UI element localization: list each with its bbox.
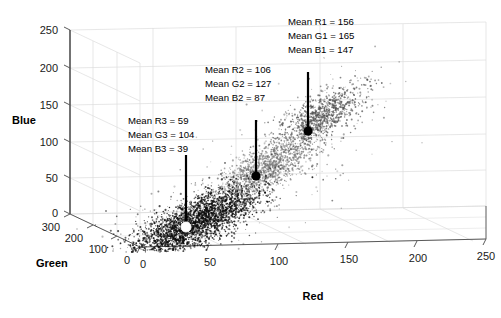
green-tick-0: 0 bbox=[124, 254, 130, 266]
blue-tick-0: 0 bbox=[52, 207, 58, 219]
mean-marker-2 bbox=[251, 171, 260, 180]
mean-marker-1 bbox=[303, 126, 312, 135]
annotation-2: Mean R2 = 106 Mean G2 = 127 Mean B2 = 87 bbox=[205, 64, 271, 103]
annotation-2-line-2: Mean G2 = 127 bbox=[205, 78, 271, 89]
annotation-1: Mean R1 = 156 Mean G1 = 165 Mean B1 = 14… bbox=[288, 16, 354, 55]
green-axis-label: Green bbox=[36, 257, 68, 269]
annotation-3-line-1: Mean R3 = 59 bbox=[128, 115, 189, 126]
blue-tick-150: 150 bbox=[40, 99, 58, 111]
red-tick-0: 0 bbox=[140, 258, 146, 270]
red-axis-label: Red bbox=[303, 290, 324, 302]
green-tick-100: 100 bbox=[89, 243, 107, 255]
blue-tick-50: 50 bbox=[46, 172, 58, 184]
annotation-1-line-3: Mean B1 = 147 bbox=[288, 44, 353, 55]
annotation-2-line-1: Mean R2 = 106 bbox=[205, 64, 271, 75]
red-tick-100: 100 bbox=[270, 255, 288, 267]
blue-tick-250: 250 bbox=[40, 24, 58, 36]
scatter3d-plot: 250 200 150 100 50 0 300 200 100 0 0 50 … bbox=[0, 0, 501, 318]
annotation-3-line-3: Mean B3 = 39 bbox=[128, 143, 188, 154]
red-tick-200: 200 bbox=[409, 252, 427, 264]
green-tick-300: 300 bbox=[42, 221, 60, 233]
chart-figure: 250 200 150 100 50 0 300 200 100 0 0 50 … bbox=[0, 0, 501, 318]
annotation-1-line-2: Mean G1 = 165 bbox=[288, 30, 354, 41]
red-tick-150: 150 bbox=[340, 253, 358, 265]
annotation-3-line-2: Mean G3 = 104 bbox=[128, 129, 195, 140]
blue-tick-100: 100 bbox=[40, 136, 58, 148]
annotation-3: Mean R3 = 59 Mean G3 = 104 Mean B3 = 39 bbox=[128, 115, 195, 154]
blue-tick-200: 200 bbox=[40, 62, 58, 74]
red-axis-line bbox=[140, 239, 486, 247]
mean-marker-3 bbox=[181, 222, 191, 232]
annotation-1-line-1: Mean R1 = 156 bbox=[288, 16, 354, 27]
green-tick-200: 200 bbox=[65, 232, 83, 244]
red-tick-50: 50 bbox=[204, 256, 216, 268]
annotation-2-line-3: Mean B2 = 87 bbox=[205, 92, 265, 103]
red-tick-250: 250 bbox=[477, 250, 495, 262]
blue-axis-label: Blue bbox=[12, 114, 36, 126]
